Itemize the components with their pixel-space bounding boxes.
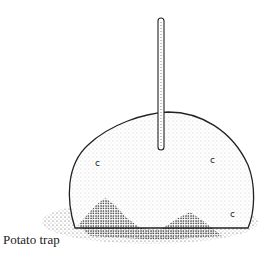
- figure: c c c Potato trap: [0, 0, 265, 265]
- potato-eye: c: [95, 158, 100, 168]
- potato-eye: c: [230, 209, 235, 219]
- potato-eye: c: [210, 155, 215, 165]
- potato-trap-illustration: c c c: [0, 0, 265, 265]
- figure-caption: Potato trap: [3, 232, 60, 248]
